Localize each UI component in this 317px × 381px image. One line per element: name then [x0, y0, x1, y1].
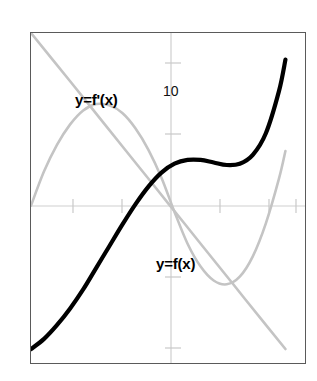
figure-canvas: y=f'(x) y=f(x) y=f''(x) 10 -10	[0, 0, 317, 381]
curve-f-double-prime	[31, 33, 285, 349]
y-tick-label-10: 10	[163, 83, 179, 99]
curve-label-f: y=f(x)	[156, 255, 195, 272]
plot-frame: y=f'(x) y=f(x) y=f''(x) 10 -10	[30, 32, 306, 364]
curve-label-f-prime: y=f'(x)	[75, 91, 118, 108]
curve-label-f-double-prime: y=f''(x)	[107, 360, 153, 364]
curve-f	[31, 60, 285, 349]
